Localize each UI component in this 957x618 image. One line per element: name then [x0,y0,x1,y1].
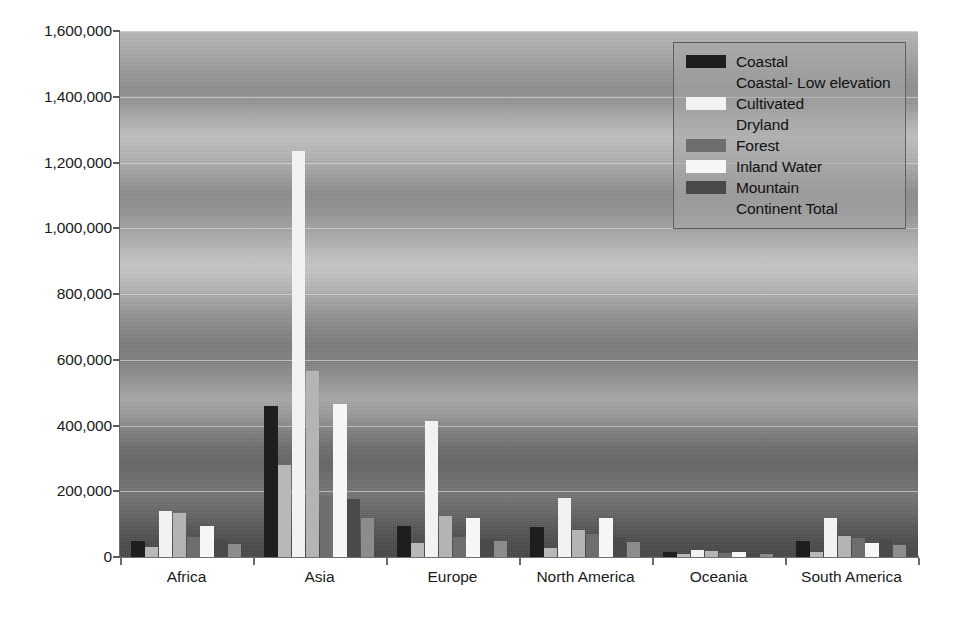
bar-oceania-coastal [663,552,676,557]
legend-swatch-icon [686,139,726,152]
legend-swatch-icon [686,118,726,131]
x-tick-mark [519,558,521,565]
bar-north-america-coastal [530,527,543,557]
legend-item-continent-total[interactable]: Continent Total [686,198,895,219]
y-tick-label: 1,400,000 [0,88,112,106]
y-tick-mark [113,490,120,492]
x-tick-label-europe: Europe [428,568,478,586]
bar-south-america-continent-total [893,545,906,557]
x-tick-label-north-america: North America [536,568,634,586]
bar-africa-coastal [131,541,144,557]
y-tick-label: 600,000 [0,351,112,369]
x-tick-mark [785,558,787,565]
bar-south-america-mountain [879,540,892,557]
bar-south-america-inland-water [865,543,878,557]
bar-oceania-forest [719,553,732,557]
x-tick-label-africa: Africa [167,568,207,586]
bar-north-america-dryland [572,530,585,557]
bar-asia-continent-total [361,518,374,557]
y-tick-mark [113,425,120,427]
bar-oceania-mountain [746,553,759,557]
legend-label: Forest [736,137,779,155]
bar-africa-inland-water [200,526,213,557]
x-tick-mark [253,558,255,565]
bar-asia-forest [320,496,333,557]
bar-north-america-cultivated [558,498,571,557]
bar-asia-coastal-low-elevation [278,465,291,557]
bar-africa-dryland [173,513,186,557]
y-tick-label: 1,600,000 [0,22,112,40]
bar-north-america-forest [586,534,599,557]
y-tick-mark [113,96,120,98]
legend-swatch-icon [686,97,726,110]
legend-label: Mountain [736,179,799,197]
bar-europe-inland-water [466,518,479,557]
legend-swatch-icon [686,76,726,89]
x-tick-label-oceania: Oceania [690,568,748,586]
bar-africa-continent-total [228,544,241,557]
bar-south-america-dryland [838,536,851,557]
bar-chart: 0200,000400,000600,000800,0001,000,0001,… [0,0,957,618]
bar-south-america-coastal-low-elevation [810,552,823,557]
bar-north-america-coastal-low-elevation [544,548,557,557]
x-tick-mark [386,558,388,565]
bar-europe-continent-total [494,541,507,557]
bar-europe-cultivated [425,421,438,557]
y-tick-label: 200,000 [0,482,112,500]
bar-africa-mountain [214,539,227,557]
bar-europe-coastal-low-elevation [411,543,424,557]
bar-asia-inland-water [333,404,346,557]
y-tick-mark [113,227,120,229]
y-tick-label: 1,200,000 [0,154,112,172]
x-tick-label-asia: Asia [304,568,334,586]
bar-north-america-inland-water [599,518,612,557]
legend-item-dryland[interactable]: Dryland [686,114,895,135]
bar-africa-forest [187,537,200,557]
x-tick-mark [918,558,920,565]
y-tick-label: 400,000 [0,417,112,435]
legend-swatch-icon [686,160,726,173]
bar-africa-cultivated [159,511,172,557]
legend: CoastalCoastal- Low elevationCultivatedD… [673,42,906,229]
x-tick-label-south-america: South America [801,568,902,586]
bar-oceania-continent-total [760,554,773,557]
bar-oceania-inland-water [732,552,745,557]
bar-europe-dryland [439,516,452,557]
bar-europe-forest [453,537,466,557]
y-tick-mark [113,293,120,295]
bar-europe-mountain [480,539,493,557]
bar-south-america-cultivated [824,518,837,557]
y-tick-mark [113,30,120,32]
bar-oceania-cultivated [691,550,704,557]
legend-label: Cultivated [736,95,804,113]
bar-north-america-mountain [613,537,626,557]
bar-oceania-dryland [705,551,718,557]
y-tick-mark [113,359,120,361]
legend-label: Continent Total [736,200,838,218]
legend-item-mountain[interactable]: Mountain [686,177,895,198]
legend-item-coastal[interactable]: Coastal [686,51,895,72]
legend-swatch-icon [686,181,726,194]
y-tick-label: 800,000 [0,285,112,303]
legend-item-coastal-low-elevation[interactable]: Coastal- Low elevation [686,72,895,93]
bar-asia-mountain [347,499,360,557]
bar-north-america-continent-total [627,542,640,557]
legend-label: Coastal [736,53,788,71]
legend-item-inland-water[interactable]: Inland Water [686,156,895,177]
y-tick-label: 0 [0,548,112,566]
legend-swatch-icon [686,55,726,68]
bar-africa-coastal-low-elevation [145,547,158,557]
legend-label: Coastal- Low elevation [736,74,891,92]
bar-asia-coastal [264,406,277,557]
x-tick-mark [652,558,654,565]
bar-asia-dryland [306,371,319,557]
legend-item-cultivated[interactable]: Cultivated [686,93,895,114]
y-tick-mark [113,556,120,558]
bar-asia-cultivated [292,151,305,557]
legend-item-forest[interactable]: Forest [686,135,895,156]
legend-label: Dryland [736,116,789,134]
bar-south-america-coastal [796,541,809,557]
bar-europe-coastal [397,526,410,557]
bar-south-america-forest [852,538,865,557]
x-tick-mark [120,558,122,565]
